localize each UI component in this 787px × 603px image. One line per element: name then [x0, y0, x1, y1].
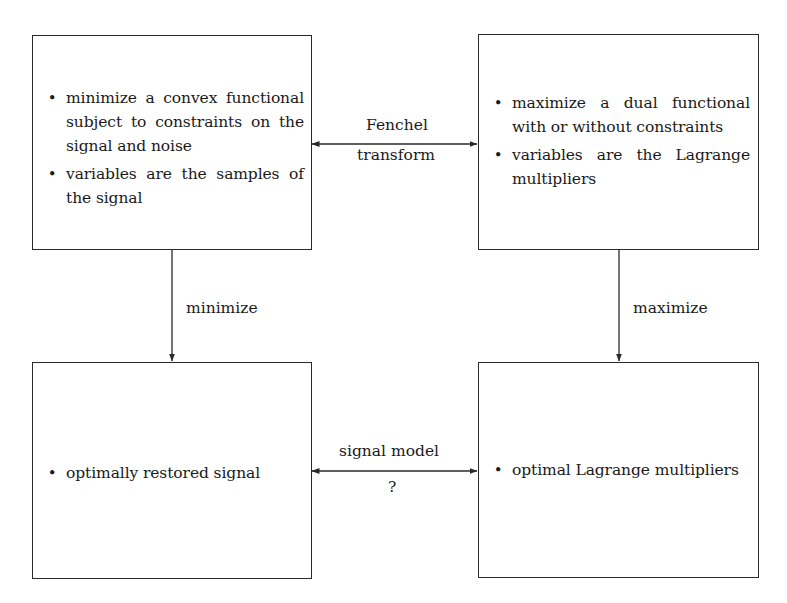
optimal-multipliers-list: • optimal Lagrange multipliers [492, 458, 750, 486]
signal-model-label-bottom: ? [388, 478, 396, 496]
list-item: • variables are the Lagrange multipliers [492, 143, 750, 191]
dual-problem-box: • maximize a dual functional with or wit… [478, 34, 759, 250]
signal-model-label-top: signal model [339, 442, 439, 460]
bullet-icon: • [46, 162, 58, 186]
bullet-icon: • [492, 91, 504, 115]
bullet-icon: • [46, 86, 58, 110]
bullet-icon: • [492, 458, 504, 482]
minimize-label: minimize [186, 299, 258, 317]
fenchel-label-bottom: transform [357, 146, 435, 164]
fenchel-label-top: Fenchel [366, 116, 428, 134]
bullet-icon: • [492, 143, 504, 167]
list-item: • optimal Lagrange multipliers [492, 458, 750, 482]
bullet-icon: • [46, 461, 58, 485]
dual-problem-list: • maximize a dual functional with or wit… [492, 91, 750, 195]
list-item: • minimize a convex functional subject t… [46, 86, 304, 158]
optimal-multipliers-box: • optimal Lagrange multipliers [478, 362, 759, 578]
primal-problem-box: • minimize a convex functional subject t… [32, 35, 312, 250]
restored-signal-box: • optimally restored signal [32, 362, 312, 579]
list-item: • optimally restored signal [46, 461, 304, 485]
list-item: • maximize a dual functional with or wit… [492, 91, 750, 139]
restored-signal-list: • optimally restored signal [46, 461, 304, 489]
maximize-label: maximize [633, 299, 708, 317]
primal-problem-list: • minimize a convex functional subject t… [46, 86, 304, 214]
list-item: • variables are the samples of the signa… [46, 162, 304, 210]
